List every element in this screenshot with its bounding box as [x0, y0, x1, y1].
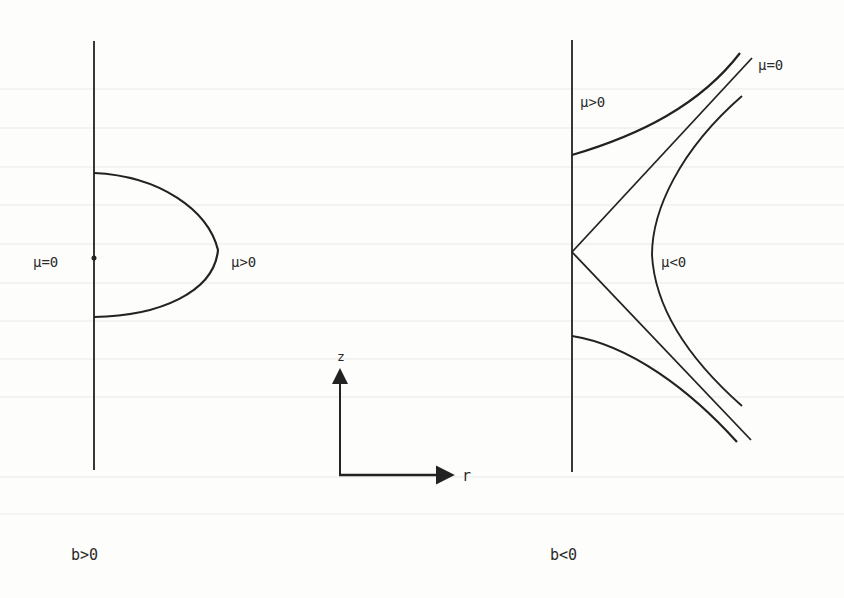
separatrix-upper	[572, 58, 752, 252]
left-axis-point-label: μ=0	[33, 255, 58, 269]
left-panel	[92, 41, 219, 470]
r-axis-label: r	[462, 469, 471, 484]
right-inner-label: μ<0	[661, 255, 686, 269]
hyperbola-curve	[652, 96, 742, 406]
separatrix-lower	[572, 252, 751, 440]
semicircle-curve	[94, 173, 218, 317]
z-axis-label: z	[337, 350, 345, 363]
scanned-page: μ=0 μ>0 b>0 μ>0 μ=0 μ<0 b<0 z r	[0, 0, 844, 598]
lower-curve	[572, 336, 737, 442]
fixed-point-dot	[92, 256, 97, 261]
left-caption: b>0	[71, 548, 98, 563]
right-caption: b<0	[550, 548, 577, 563]
left-curve-label: μ>0	[231, 255, 256, 269]
axes-inset	[339, 372, 450, 475]
right-separatrix-label: μ=0	[758, 58, 783, 72]
right-upper-label: μ>0	[580, 95, 605, 109]
bifurcation-figure	[0, 0, 844, 598]
